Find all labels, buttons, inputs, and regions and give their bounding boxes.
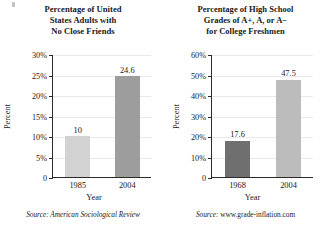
bar: 47.52004 bbox=[276, 80, 302, 177]
y-axis-label: Percent bbox=[172, 97, 181, 137]
bar-value-label: 17.6 bbox=[230, 130, 245, 139]
y-axis-tick-label: 25% bbox=[32, 71, 47, 80]
plot-area: 010%20%30%40%50%60%17.6196847.52004 bbox=[211, 55, 313, 178]
x-axis-tick-label: 2004 bbox=[119, 181, 136, 190]
bar-value-label: 10 bbox=[74, 126, 82, 135]
bar-value-label: 24.6 bbox=[120, 66, 135, 75]
y-axis-tick bbox=[49, 158, 53, 159]
source-note: Source: American Sociological Review bbox=[0, 210, 166, 219]
y-axis-tick-label: 20% bbox=[32, 92, 47, 101]
y-axis-tick bbox=[208, 158, 212, 159]
bar-value-label: 47.5 bbox=[281, 69, 296, 78]
source-note: Source: www.grade-inflation.com bbox=[166, 210, 325, 219]
y-axis-tick bbox=[49, 76, 53, 77]
chart-title-line: No Close Friends bbox=[0, 26, 166, 37]
y-axis-tick-label: 50% bbox=[191, 71, 206, 80]
bar: 17.61968 bbox=[225, 141, 251, 177]
y-axis-tick-label: 5% bbox=[36, 153, 47, 162]
y-axis-tick-label: 10% bbox=[32, 133, 47, 142]
y-axis-tick-label: 15% bbox=[32, 112, 47, 121]
y-gridline bbox=[212, 76, 313, 77]
chart-title-line: Percentage of United bbox=[0, 4, 166, 15]
x-axis-tick-label: 2004 bbox=[280, 181, 297, 190]
y-axis-tick-label: 0 bbox=[43, 174, 47, 183]
x-axis-tick-label: 1985 bbox=[69, 181, 86, 190]
y-axis-tick bbox=[49, 55, 53, 56]
chart-title: Percentage of United States Adults with … bbox=[0, 4, 166, 38]
y-gridline bbox=[212, 55, 313, 56]
y-axis-tick bbox=[208, 76, 212, 77]
chart-panel-high-school-grades: Percentage of High School Grades of A+, … bbox=[166, 0, 325, 230]
y-axis-tick-label: 20% bbox=[191, 133, 206, 142]
y-axis-tick-label: 60% bbox=[191, 51, 206, 60]
y-axis-tick bbox=[208, 117, 212, 118]
y-axis-tick bbox=[208, 96, 212, 97]
y-axis-tick bbox=[208, 55, 212, 56]
y-axis-tick bbox=[208, 178, 212, 179]
y-axis-tick bbox=[49, 178, 53, 179]
x-axis-tick-label: 1968 bbox=[229, 181, 246, 190]
chart-title: Percentage of High School Grades of A+, … bbox=[166, 4, 325, 38]
y-axis-tick bbox=[49, 117, 53, 118]
plot-area: 05%10%15%20%25%30%10198524.62004 bbox=[52, 55, 151, 178]
y-axis-tick-label: 40% bbox=[191, 92, 206, 101]
y-gridline bbox=[53, 55, 151, 56]
source-text: American Sociological Review bbox=[49, 210, 140, 219]
y-axis-tick bbox=[208, 137, 212, 138]
x-axis-label: Year bbox=[166, 193, 325, 202]
chart-title-line: States Adults with bbox=[0, 15, 166, 26]
source-text: www.grade-inflation.com bbox=[218, 210, 295, 219]
chart-title-line: Percentage of High School bbox=[166, 4, 325, 15]
figure-pair: Percentage of United States Adults with … bbox=[0, 0, 325, 230]
y-axis-tick bbox=[49, 96, 53, 97]
y-axis-tick-label: 10% bbox=[191, 153, 206, 162]
chart-title-line: Grades of A+, A, or A− bbox=[166, 15, 325, 26]
bar: 24.62004 bbox=[115, 76, 140, 177]
y-axis-label: Percent bbox=[3, 97, 12, 137]
source-prefix: Source: bbox=[196, 210, 218, 219]
y-axis-tick bbox=[49, 137, 53, 138]
bar: 101985 bbox=[65, 136, 90, 177]
y-axis-tick-label: 0 bbox=[202, 174, 206, 183]
chart-panel-adults-no-close-friends: Percentage of United States Adults with … bbox=[0, 0, 166, 230]
source-prefix: Source: bbox=[26, 210, 48, 219]
x-axis-label: Year bbox=[0, 193, 166, 202]
y-axis-tick-label: 30% bbox=[191, 112, 206, 121]
chart-title-line: for College Freshmen bbox=[166, 26, 325, 37]
y-axis-tick-label: 30% bbox=[32, 51, 47, 60]
